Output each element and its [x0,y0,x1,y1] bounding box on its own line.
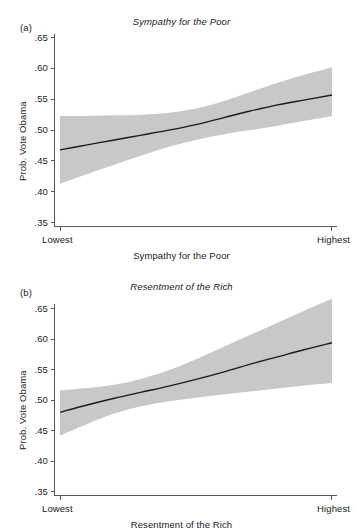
confidence-band-shape [60,67,332,184]
confidence-band-shape [60,299,332,436]
panel-a-xtick-highest: Highest [300,235,350,245]
panel-b-xtick-lowest: Lowest [42,504,73,514]
y-tick-label: .40 [20,456,48,466]
y-tick-label: .35 [20,487,48,497]
y-tick-label: .65 [20,33,48,43]
y-tick-label: .35 [20,218,48,228]
y-tick-label: .65 [20,304,48,314]
panel-a-xtick-lowest: Lowest [42,235,73,245]
panel-a: (a) Sympathy for the Poor Prob. Vote Oba… [0,0,363,264]
y-tick-marks [51,38,55,223]
panel-a-confidence-band [60,67,332,184]
y-tick-label: .50 [20,395,48,405]
y-tick-label: .45 [20,426,48,436]
panel-a-y-axis-label: Prob. Vote Obama [18,101,28,181]
y-tick-label: .60 [20,334,48,344]
figure-predicted-probabilities: (a) Sympathy for the Poor Prob. Vote Oba… [0,0,363,529]
panel-b-confidence-band [60,299,332,436]
panel-a-plot [0,0,363,264]
y-tick-label: .55 [20,365,48,375]
panel-b-xtick-highest: Highest [300,504,350,514]
y-tick-marks [51,309,55,492]
y-tick-label: .50 [20,125,48,135]
y-tick-label: .40 [20,187,48,197]
panel-a-x-axis-label: Sympathy for the Poor [0,251,363,261]
panel-b-x-axis-label: Resentment of the Rich [0,520,363,529]
y-tick-label: .55 [20,94,48,104]
panel-b: (b) Resentment of the Rich Prob. Vote Ob… [0,265,363,529]
y-tick-label: .60 [20,63,48,73]
y-tick-label: .45 [20,156,48,166]
panel-b-plot [0,265,363,529]
panel-b-y-axis-label: Prob. Vote Obama [18,370,28,450]
